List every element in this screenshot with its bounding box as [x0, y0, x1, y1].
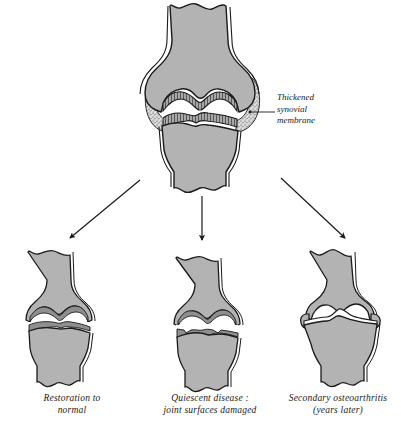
panel-restoration-to-normal: [12, 250, 95, 386]
panel-quiescent-disease: [174, 256, 243, 391]
restoration-left-periosteum: [12, 253, 24, 302]
arrow-to-restoration: [70, 180, 140, 238]
caption-quiescent-disease: Quiescent disease : joint surfaces damag…: [140, 392, 280, 416]
lower-bone-main: [162, 123, 238, 193]
quiescent-lower-bone: [177, 333, 238, 392]
restoration-lower-bone: [29, 328, 90, 387]
caption-restoration-to-normal: Restoration to normal: [8, 392, 136, 416]
arrow-to-osteoarthritis: [281, 178, 345, 238]
synovial-membrane-label: Thickened synovial membrane: [277, 92, 397, 127]
joint-illustration-svg: [0, 0, 401, 427]
panel-active-rheumatoid-joint: [140, 4, 275, 193]
caption-secondary-osteoarthritis: Secondary osteoarthritis (years later): [276, 392, 400, 416]
osteoarthritis-lower-bone: [304, 316, 377, 387]
joint-disease-figure: Thickened synovial membrane Restoration …: [0, 0, 401, 427]
synovium-leader-anchor: [249, 111, 252, 114]
panel-secondary-osteoarthritis: [301, 250, 381, 387]
